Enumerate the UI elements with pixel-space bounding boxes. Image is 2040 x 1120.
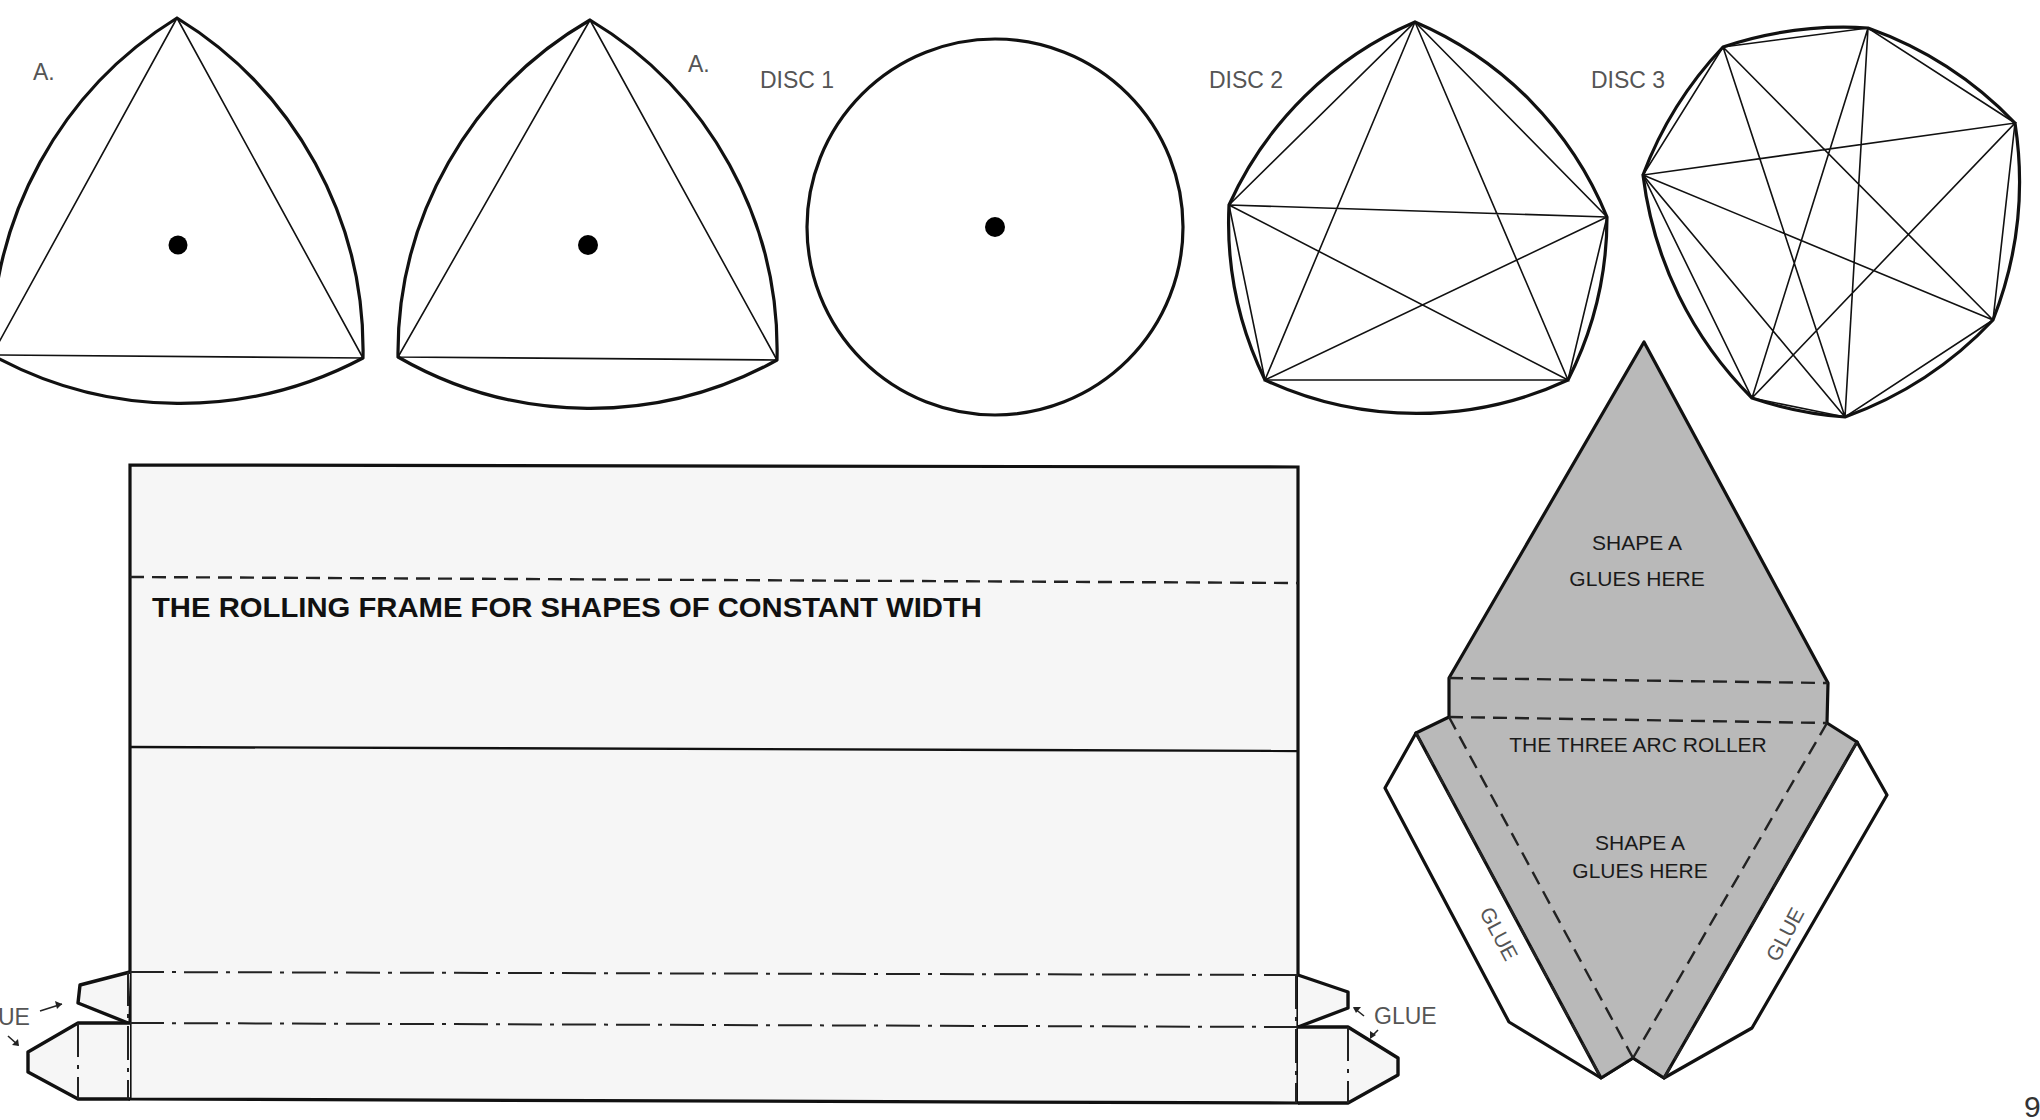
- shape-label: A.: [688, 51, 710, 77]
- net-lower-label-line2: GLUES HERE: [1572, 859, 1707, 882]
- net-upper-label-line2: GLUES HERE: [1569, 567, 1704, 590]
- net-title: THE THREE ARC ROLLER: [1509, 733, 1767, 756]
- disc-2: DISC 2: [1209, 22, 1607, 413]
- disc-outline: [1229, 22, 1607, 413]
- shape-label: DISC 1: [760, 67, 834, 93]
- center-pin-hole: [169, 236, 188, 255]
- net-lower-label-line1: SHAPE A: [1595, 831, 1685, 854]
- reuleaux-triangle-a-2: A.: [398, 20, 777, 408]
- inscribed-pentagon: [1229, 22, 1607, 380]
- constant-width-cutout-sheet: A. A. DISC 1 DISC 2 DISC 3: [0, 0, 2040, 1120]
- center-pin-hole: [985, 217, 1005, 237]
- disc-1: DISC 1: [760, 39, 1183, 415]
- frame-body: [130, 465, 1298, 1103]
- reuleaux-triangle-a-1: A.: [0, 18, 363, 403]
- glue-tab-left-small: [78, 972, 130, 1023]
- shape-label: DISC 3: [1591, 67, 1665, 93]
- page-number: 9: [2024, 1090, 2040, 1120]
- glue-label-left: UE: [0, 1004, 30, 1030]
- net-upper-label-line1: SHAPE A: [1592, 531, 1682, 554]
- glue-label-right: GLUE: [1374, 1003, 1437, 1029]
- arrow-head-icon: [55, 1001, 62, 1009]
- inscribed-pentagram: [1229, 22, 1607, 380]
- frame-title: THE ROLLING FRAME FOR SHAPES OF CONSTANT…: [152, 592, 982, 623]
- disc-3: DISC 3: [1591, 27, 2019, 417]
- three-arc-roller-net: SHAPE A GLUES HERE THE THREE ARC ROLLER …: [1385, 342, 1887, 1078]
- shape-label: DISC 2: [1209, 67, 1283, 93]
- inscribed-triangle: [398, 20, 777, 360]
- rolling-frame: THE ROLLING FRAME FOR SHAPES OF CONSTANT…: [0, 465, 1437, 1103]
- reuleaux-outline: [398, 20, 777, 408]
- shape-label: A.: [33, 59, 55, 85]
- glue-tab-right-small: [1298, 975, 1348, 1027]
- center-pin-hole: [578, 235, 598, 255]
- inscribed-heptagon: [1643, 28, 2015, 417]
